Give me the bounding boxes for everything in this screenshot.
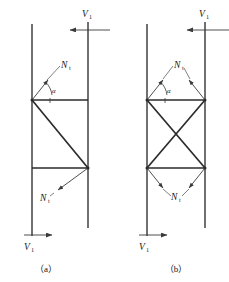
panel-b-force-leader-upper-left <box>163 66 173 79</box>
panel-b-group: V 1 V 1 N t N t α （b） <box>139 9 229 274</box>
panel-a-shear-top-symbol: V <box>82 9 89 19</box>
panel-a-group: V 1 V 1 N t N t α （a） <box>24 9 110 274</box>
panel-b-force-arrow-upper-left <box>147 80 163 100</box>
panel-b-force-bottom-symbol: N <box>170 192 178 202</box>
panel-b-shear-top-symbol: V <box>199 9 206 19</box>
panel-b-force-top-symbol: N <box>173 60 181 70</box>
panel-a-angle-label: α <box>52 87 56 95</box>
panel-a-joint-lower-right <box>87 167 90 170</box>
panel-b-shear-bottom-symbol: V <box>139 242 146 252</box>
panel-b-joint-upper-left <box>146 99 149 102</box>
panel-b-force-leader-lower-left <box>163 189 171 196</box>
panel-b-caption: （b） <box>165 264 188 274</box>
panel-a-shear-top-subscript: 1 <box>89 13 92 20</box>
panel-b-force-leader-lower-right <box>182 189 189 196</box>
panel-a-shear-bottom-symbol: V <box>24 242 31 252</box>
panel-a-joint-upper-left <box>31 99 34 102</box>
panel-a-force-bottom-symbol: N <box>39 193 47 203</box>
figure-root: V 1 V 1 N t N t α （a） <box>0 0 229 282</box>
panel-b-joint-upper-right <box>204 99 207 102</box>
panel-a-caption: （a） <box>35 264 57 274</box>
structural-diagram-svg: V 1 V 1 N t N t α （a） <box>0 0 229 282</box>
panel-a-force-leader-bottom <box>50 193 54 196</box>
panel-b-joint-lower-right <box>204 167 207 170</box>
panel-b-shear-top-subscript: 1 <box>206 13 209 20</box>
panel-b-force-top-subscript: t <box>182 64 184 71</box>
panel-b-force-leader-upper-right <box>184 68 190 79</box>
panel-a-shear-bottom-subscript: 1 <box>31 246 34 253</box>
panel-a-force-arrow-bottom <box>58 168 88 190</box>
panel-b-shear-bottom-subscript: 1 <box>146 246 149 253</box>
panel-a-force-arrow-top <box>32 80 48 100</box>
panel-a-force-top-symbol: N <box>60 60 68 70</box>
panel-a-diagonal-brace <box>32 100 88 168</box>
panel-b-force-bottom-subscript: t <box>179 196 181 203</box>
panel-b-joint-lower-left <box>146 167 149 170</box>
panel-a-force-bottom-subscript: t <box>48 197 50 204</box>
panel-b-force-arrow-lower-left <box>147 168 163 188</box>
panel-b-force-arrow-upper-right <box>189 80 205 100</box>
panel-b-force-arrow-lower-right <box>189 168 205 188</box>
panel-a-force-top-subscript: t <box>69 64 71 71</box>
panel-a-force-leader-top <box>47 66 60 80</box>
panel-b-angle-label: α <box>167 87 171 95</box>
